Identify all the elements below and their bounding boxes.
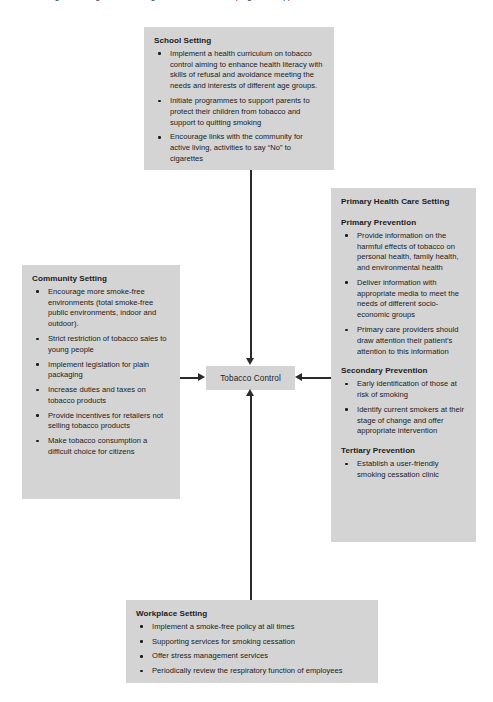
community-setting-box: Community Setting Encourage more smoke-f…: [22, 265, 180, 499]
arrow-head-left-icon: [295, 373, 302, 381]
arrow-shaft: [250, 170, 252, 359]
bullet-dot-icon: [158, 52, 161, 55]
bullet-dot-icon: [345, 234, 348, 237]
list-item-text: Provide information on the harmful effec…: [357, 231, 459, 272]
list-item-text: Initiate programmes to support parents t…: [170, 96, 310, 127]
list-item: Offer stress management services: [136, 651, 368, 662]
list-item: Strict restriction of tobacco sales to y…: [32, 334, 170, 356]
secondary-prevention-section: Secondary Prevention Early identificatio…: [341, 366, 467, 437]
list-item: Implement legislation for plain packagin…: [32, 360, 170, 382]
tertiary-prevention-section: Tertiary Prevention Establish a user-fri…: [341, 446, 467, 480]
section-spacer: [341, 437, 467, 446]
arrow-head-up-icon: [246, 389, 254, 396]
diagram-canvas: Figure: Settings-based strategies for to…: [0, 0, 493, 702]
arrow-shaft: [302, 377, 331, 379]
list-item-text: Supporting services for smoking cessatio…: [152, 637, 295, 646]
list-item-text: Primary care providers should draw atten…: [357, 325, 458, 356]
list-item: Initiate programmes to support parents t…: [154, 96, 324, 128]
bullet-dot-icon: [36, 440, 39, 443]
tertiary-prevention-heading: Tertiary Prevention: [341, 446, 467, 456]
bullet-dot-icon: [140, 670, 143, 673]
bullet-dot-icon: [158, 100, 161, 103]
bullet-dot-icon: [36, 363, 39, 366]
primary-health-care-setting-box: Primary Health Care Setting Primary Prev…: [331, 188, 476, 542]
arrow-head-right-icon: [198, 373, 205, 381]
bullet-dot-icon: [345, 383, 348, 386]
list-item: Encourage links with the community for a…: [154, 132, 324, 164]
bullet-dot-icon: [36, 290, 39, 293]
list-item-text: Early identification of those at risk of…: [357, 379, 457, 399]
list-item: Supporting services for smoking cessatio…: [136, 637, 368, 648]
list-item-text: Offer stress management services: [152, 651, 268, 660]
list-item: Implement a smoke-free policy at all tim…: [136, 622, 368, 633]
list-item-text: Establish a user-friendly smoking cessat…: [357, 459, 439, 479]
bullet-dot-icon: [140, 625, 143, 628]
arrow-school-to-center: [246, 170, 256, 367]
arrow-shaft: [180, 377, 199, 379]
bullet-dot-icon: [345, 408, 348, 411]
primary-prevention-heading: Primary Prevention: [341, 218, 467, 228]
list-item-text: Implement a health curriculum on tobacco…: [170, 49, 322, 90]
bullet-dot-icon: [158, 136, 161, 139]
list-item: Increase duties and taxes on tobacco pro…: [32, 385, 170, 407]
list-item: Provide information on the harmful effec…: [341, 231, 467, 274]
bullet-dot-icon: [36, 414, 39, 417]
bullet-dot-icon: [345, 463, 348, 466]
list-item: Identify current smokers at their stage …: [341, 405, 467, 437]
primary-prevention-list: Provide information on the harmful effec…: [341, 231, 467, 358]
list-item: Periodically review the respiratory func…: [136, 666, 368, 677]
list-item-text: Strict restriction of tobacco sales to y…: [48, 334, 167, 354]
workplace-setting-list: Implement a smoke-free policy at all tim…: [136, 622, 368, 677]
bullet-dot-icon: [140, 640, 143, 643]
arrow-shaft: [250, 396, 252, 600]
tertiary-prevention-list: Establish a user-friendly smoking cessat…: [341, 459, 467, 481]
list-item: Early identification of those at risk of…: [341, 379, 467, 401]
list-item-text: Provide incentives for retailers not sel…: [48, 411, 163, 431]
secondary-prevention-heading: Secondary Prevention: [341, 366, 467, 376]
community-setting-list: Encourage more smoke-free environments (…: [32, 287, 170, 458]
list-item: Deliver information with appropriate med…: [341, 278, 467, 321]
bullet-dot-icon: [140, 655, 143, 658]
workplace-setting-box: Workplace Setting Implement a smoke-free…: [126, 600, 378, 683]
arrow-primary-health-care-to-center: [295, 373, 331, 383]
workplace-setting-title: Workplace Setting: [136, 609, 368, 619]
list-item: Primary care providers should draw atten…: [341, 325, 467, 357]
bullet-dot-icon: [345, 329, 348, 332]
community-setting-title: Community Setting: [32, 274, 170, 284]
list-item-text: Encourage more smoke-free environments (…: [48, 287, 156, 328]
bullet-dot-icon: [36, 338, 39, 341]
list-item-text: Periodically review the respiratory func…: [152, 666, 343, 675]
caption-remnant-text: Figure: Settings-based strategies for to…: [48, 0, 321, 1]
bullet-dot-icon: [36, 389, 39, 392]
list-item-text: Implement a smoke-free policy at all tim…: [152, 622, 295, 631]
secondary-prevention-list: Early identification of those at risk of…: [341, 379, 467, 437]
arrow-workplace-to-center: [246, 389, 256, 600]
list-item: Implement a health curriculum on tobacco…: [154, 49, 324, 92]
list-item-text: Encourage links with the community for a…: [170, 132, 303, 163]
list-item-text: Deliver information with appropriate med…: [357, 278, 459, 319]
bullet-dot-icon: [345, 281, 348, 284]
school-setting-box: School Setting Implement a health curric…: [144, 27, 334, 170]
list-item: Provide incentives for retailers not sel…: [32, 411, 170, 433]
list-item-text: Implement legislation for plain packagin…: [48, 360, 149, 380]
primary-health-care-setting-title: Primary Health Care Setting: [341, 197, 467, 207]
tobacco-control-node: Tobacco Control: [206, 366, 295, 390]
list-item-text: Increase duties and taxes on tobacco pro…: [48, 385, 146, 405]
list-item: Establish a user-friendly smoking cessat…: [341, 459, 467, 481]
primary-prevention-section: Primary Prevention Provide information o…: [341, 218, 467, 357]
list-item-text: Make tobacco consumption a difficult cho…: [48, 436, 147, 456]
arrow-community-to-center: [180, 373, 206, 383]
list-item: Encourage more smoke-free environments (…: [32, 287, 170, 330]
tobacco-control-label: Tobacco Control: [220, 374, 281, 383]
list-item: Make tobacco consumption a difficult cho…: [32, 436, 170, 458]
school-setting-list: Implement a health curriculum on tobacco…: [154, 49, 324, 165]
caption-remnant: Figure: Settings-based strategies for to…: [0, 0, 493, 9]
arrow-head-down-icon: [246, 358, 254, 365]
section-spacer: [341, 357, 467, 366]
list-item-text: Identify current smokers at their stage …: [357, 405, 464, 436]
school-setting-title: School Setting: [154, 36, 324, 46]
